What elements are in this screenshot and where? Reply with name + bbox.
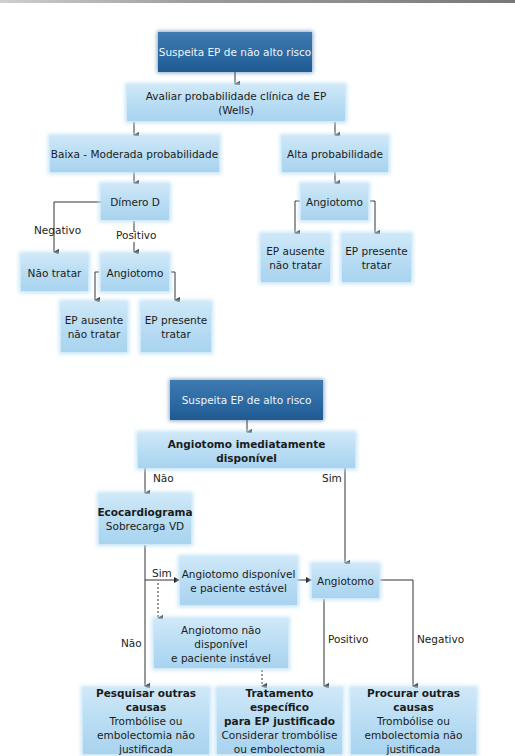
angio-left-label: Angiotomo xyxy=(106,266,163,280)
negative-label: Negativo xyxy=(34,224,81,236)
right-ep-absent-line2: não tratar xyxy=(269,258,322,272)
no-treat-label: Não tratar xyxy=(28,266,82,280)
right-ep-present-line2: tratar xyxy=(362,258,392,272)
angio-right-label: Angiotomo xyxy=(306,195,363,209)
angio-label: Angiotomo xyxy=(317,574,374,588)
left-ep-absent-line1: EP ausente xyxy=(65,313,124,327)
outcome-mid-line2: ou embolectomia xyxy=(234,742,325,756)
outcome-right-line3: justificada xyxy=(387,742,441,756)
high-probability-box: Alta probabilidade xyxy=(282,136,388,172)
stable-line2: e paciente estável xyxy=(190,581,287,595)
right-ep-absent-line1: EP ausente xyxy=(266,244,325,258)
outcome-left-line3: justificada xyxy=(119,742,173,756)
echo-no-label: Não xyxy=(121,637,142,649)
outcome-mid-title1: Tratamento específico xyxy=(217,686,342,714)
outcome-left-line2: embolectomia não xyxy=(97,728,195,742)
echo-subtitle: Sobrecarga VD xyxy=(106,519,184,533)
negative-label-2: Negativo xyxy=(417,633,464,645)
angio-box: Angiotomo xyxy=(312,564,379,598)
unstable-patient-box: Angiotomo não disponível e paciente inst… xyxy=(154,619,288,668)
outcome-right-line1: Trombólise ou xyxy=(377,714,450,728)
right-ep-present-box: EP presente tratar xyxy=(342,234,411,282)
positive-label: Positivo xyxy=(116,229,156,241)
high-probability-label: Alta probabilidade xyxy=(287,147,383,161)
ct-available-label: Angiotomo imediatamente disponível xyxy=(138,437,355,465)
angio-left-box: Angiotomo xyxy=(101,254,169,291)
stable-line1: Angiotomo disponível xyxy=(182,567,296,581)
assess-label: Avaliar probabilidade clínica de EP (Wel… xyxy=(127,89,345,117)
no-label: Não xyxy=(153,472,174,484)
outcome-right-line2: embolectomia não xyxy=(365,728,463,742)
stable-patient-box: Angiotomo disponível e paciente estável xyxy=(180,557,297,605)
start-label: Suspeita EP de não alto risco xyxy=(159,45,311,59)
outcome-left-title: Pesquisar outras causas xyxy=(83,686,209,714)
d-dimer-label: Dímero D xyxy=(110,195,160,209)
unstable-line1: Angiotomo não disponível xyxy=(154,623,288,651)
outcome-mid-line1: Considerar trombólise xyxy=(221,728,337,742)
d-dimer-box: Dímero D xyxy=(101,184,169,220)
low-moderate-box: Baixa - Moderada probabilidade xyxy=(50,136,219,172)
start-high-risk-label: Suspeita EP de alto risco xyxy=(182,393,312,407)
start-high-risk: Suspeita EP de alto risco xyxy=(170,380,323,420)
outcome-mid-box: Tratamento específico para EP justificad… xyxy=(217,688,342,754)
outcome-left-box: Pesquisar outras causas Trombólise ou em… xyxy=(83,688,209,754)
outcome-right-box: Procurar outras causas Trombólise ou emb… xyxy=(351,688,476,754)
echo-box: Ecocardiograma Sobrecarga VD xyxy=(99,494,191,544)
outcome-right-title: Procurar outras causas xyxy=(351,686,476,714)
left-ep-present-box: EP presente tratar xyxy=(141,302,211,352)
assess-wells-box: Avaliar probabilidade clínica de EP (Wel… xyxy=(127,85,345,121)
left-ep-present-line1: EP presente xyxy=(145,313,208,327)
right-ep-absent-box: EP ausente não tratar xyxy=(261,234,330,282)
unstable-line2: e paciente instável xyxy=(171,651,271,665)
left-ep-present-line2: tratar xyxy=(161,327,191,341)
echo-title: Ecocardiograma xyxy=(97,505,192,519)
echo-yes-label: Sim xyxy=(152,567,172,579)
left-ep-absent-box: EP ausente não tratar xyxy=(61,302,127,352)
yes-label: Sim xyxy=(322,472,342,484)
no-treat-box: Não tratar xyxy=(21,254,88,291)
angio-right-box: Angiotomo xyxy=(301,184,368,220)
left-ep-absent-line2: não tratar xyxy=(68,327,121,341)
right-ep-present-line1: EP presente xyxy=(345,244,408,258)
outcome-left-line1: Trombólise ou xyxy=(110,714,183,728)
start-non-high-risk: Suspeita EP de não alto risco xyxy=(158,32,312,72)
positive-label-2: Positivo xyxy=(328,633,368,645)
outcome-mid-title2: para EP justificado xyxy=(224,714,335,728)
low-moderate-label: Baixa - Moderada probabilidade xyxy=(51,147,218,161)
ct-available-box: Angiotomo imediatamente disponível xyxy=(138,433,355,468)
